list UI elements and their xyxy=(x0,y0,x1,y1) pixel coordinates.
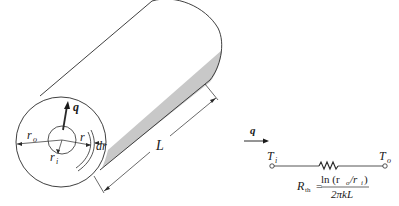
label-q-cylinder: q xyxy=(73,100,79,114)
svg-text:i: i xyxy=(56,157,58,166)
label-r: r xyxy=(80,130,85,144)
svg-text:R: R xyxy=(296,179,305,193)
svg-text:T: T xyxy=(379,149,387,163)
svg-text:r: r xyxy=(50,150,55,164)
svg-text:T: T xyxy=(267,149,275,163)
svg-text:ln (r: ln (r xyxy=(321,173,340,186)
resistance-formula: R th = ln (r o /r i ) 2πkL xyxy=(296,173,369,200)
svg-text:): ) xyxy=(364,173,368,186)
resistor xyxy=(319,162,338,169)
cylinder-bottom-edge xyxy=(100,80,210,170)
label-To: T o xyxy=(379,149,391,165)
svg-text:2πkL: 2πkL xyxy=(331,188,353,200)
outer-circle xyxy=(16,97,106,187)
svg-text:i: i xyxy=(361,179,363,187)
svg-text:o: o xyxy=(387,156,391,165)
label-Ti: T i xyxy=(267,149,277,165)
cylinder-conduction-diagram: q r o r i r dr L q T i T xyxy=(0,0,399,206)
label-q-circuit: q xyxy=(250,124,256,136)
cylinder-top-edge xyxy=(40,1,152,96)
svg-text:/r: /r xyxy=(349,173,358,185)
node-Ti xyxy=(270,164,274,168)
thermal-circuit: q T i T o R th = ln (r o /r i ) 2πkL xyxy=(244,124,391,200)
svg-text:i: i xyxy=(275,156,277,165)
svg-text:r: r xyxy=(27,128,32,142)
label-L: L xyxy=(155,138,164,153)
svg-text:o: o xyxy=(33,135,37,144)
cylinder xyxy=(16,0,222,187)
svg-text:th: th xyxy=(305,186,311,194)
label-dr: dr xyxy=(96,139,107,153)
